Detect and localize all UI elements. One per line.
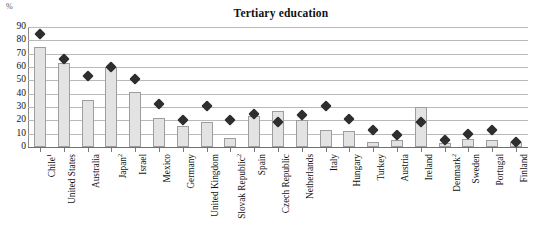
marker-netherlands (296, 109, 307, 120)
y-tick-label-60: 60 (2, 62, 26, 72)
gridline-30 (28, 107, 528, 108)
y-tick-label-40: 40 (2, 89, 26, 99)
bar-israel (129, 92, 141, 147)
bar-chile (34, 47, 46, 147)
bar-sweden (462, 139, 474, 147)
bar-spain (248, 116, 260, 147)
bar-portugal (486, 140, 498, 147)
marker-sweden (463, 128, 474, 139)
marker-chile (34, 28, 45, 39)
bar-austria (391, 140, 403, 147)
gridline-70 (28, 54, 528, 55)
x-tick-3 (111, 148, 112, 152)
x-tick-7 (207, 148, 208, 152)
y-tick-label-20: 20 (2, 115, 26, 125)
x-label-austria: Austria (401, 154, 410, 181)
bar-hungary (343, 131, 355, 147)
x-tick-11 (302, 148, 303, 152)
x-label-czech-republic: Czech Republic (282, 154, 291, 213)
bar-germany (177, 126, 189, 147)
y-tick-label-50: 50 (2, 75, 26, 85)
chart-title-text: Tertiary education (234, 7, 329, 19)
x-tick-9 (254, 148, 255, 152)
x-tick-1 (64, 148, 65, 152)
marker-slovak-republic (225, 115, 236, 126)
x-tick-4 (135, 148, 136, 152)
x-label-mexico: Mexico (163, 154, 172, 182)
bar-united-kingdom (201, 122, 213, 147)
marker-hungary (344, 113, 355, 124)
x-label-united-states: United States (68, 154, 77, 204)
x-label-spain: Spain (258, 154, 267, 175)
y-tick-label-10: 10 (2, 129, 26, 139)
x-label-netherlands: Netherlands (306, 154, 315, 199)
x-tick-6 (183, 148, 184, 152)
bar-united-states (58, 63, 70, 147)
bar-australia (82, 100, 94, 147)
bar-mexico (153, 118, 165, 147)
marker-germany (177, 115, 188, 126)
bar-netherlands (296, 120, 308, 147)
x-label-finland: Finland (520, 154, 529, 182)
x-tick-14 (373, 148, 374, 152)
x-label-denmark: Denmark2 (449, 154, 462, 192)
marker-italy (320, 100, 331, 111)
x-label-italy: Italy (330, 154, 339, 171)
gridline-60 (28, 67, 528, 68)
x-tick-10 (278, 148, 279, 152)
y-tick-label-70: 70 (2, 49, 26, 59)
bar-japan (105, 67, 117, 147)
x-tick-2 (88, 148, 89, 152)
x-tick-20 (516, 148, 517, 152)
gridline-40 (28, 94, 528, 95)
chart-container: % Tertiary education 0102030405060708090… (0, 0, 534, 230)
y-tick-label-90: 90 (2, 22, 26, 32)
chart-title: Tertiary education (0, 7, 534, 19)
marker-israel (129, 73, 140, 84)
x-tick-19 (492, 148, 493, 152)
x-label-israel: Israel (139, 154, 148, 175)
x-label-united-kingdom: United Kingdom (211, 154, 220, 217)
x-label-portugal: Portugal (496, 154, 505, 186)
x-tick-17 (445, 148, 446, 152)
bar-italy (320, 130, 332, 147)
x-tick-8 (230, 148, 231, 152)
x-label-slovak-republic: Slovak Republic2 (234, 154, 247, 219)
bar-slovak-republic (224, 138, 236, 147)
plot-area (28, 27, 528, 147)
x-label-germany: Germany (187, 154, 196, 189)
x-tick-15 (397, 148, 398, 152)
x-label-hungary: Hungary (353, 154, 362, 187)
x-tick-5 (159, 148, 160, 152)
x-label-chile: Chile1 (44, 154, 57, 177)
x-tick-16 (421, 148, 422, 152)
gridline-80 (28, 40, 528, 41)
x-label-ireland: Ireland (425, 154, 434, 180)
bar-turkey (367, 142, 379, 147)
y-axis-tick-labels: 0102030405060708090 (0, 0, 26, 160)
gridline-50 (28, 80, 528, 81)
marker-austria (391, 129, 402, 140)
x-label-japan: Japan2 (115, 154, 128, 178)
x-tick-12 (326, 148, 327, 152)
marker-mexico (153, 99, 164, 110)
gridline-90 (28, 27, 528, 28)
x-tick-18 (468, 148, 469, 152)
marker-united-kingdom (201, 100, 212, 111)
x-label-australia: Australia (92, 154, 101, 188)
y-tick-label-80: 80 (2, 35, 26, 45)
x-tick-13 (349, 148, 350, 152)
x-label-sweden: Sweden (472, 154, 481, 183)
y-tick-label-30: 30 (2, 102, 26, 112)
x-label-turkey: Turkey (377, 154, 386, 181)
y-tick-label-0: 0 (2, 142, 26, 152)
x-tick-0 (40, 148, 41, 152)
